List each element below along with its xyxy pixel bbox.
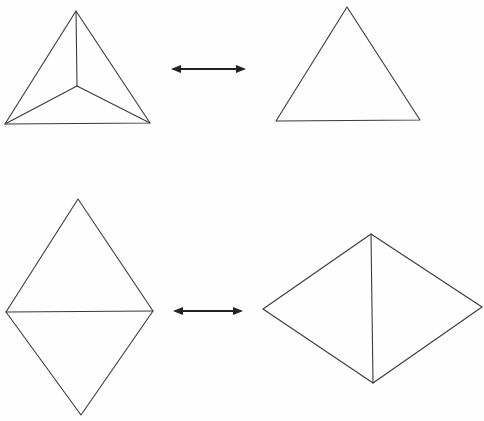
diamond-horizontal-split: [6, 199, 153, 415]
tetra-outer-triangle: [5, 11, 150, 124]
diamond-h-outline: [6, 199, 153, 415]
tetra-edge-right-center: [77, 86, 150, 123]
triangle-outline: [276, 7, 420, 121]
diamond-vertical-split: [263, 234, 482, 383]
tetra-edge-apex-center: [76, 11, 77, 86]
tetra-edge-left-center: [5, 86, 77, 124]
triangle: [276, 7, 420, 121]
diamond-h-shared-edge: [6, 311, 153, 312]
tetrahedron-projection: [5, 11, 150, 124]
diamond-v-shared-edge: [371, 234, 373, 383]
diagram-canvas: Dual polyhedra correspondence: tetrahedr…: [0, 0, 484, 421]
diagram-svg: [0, 0, 484, 421]
